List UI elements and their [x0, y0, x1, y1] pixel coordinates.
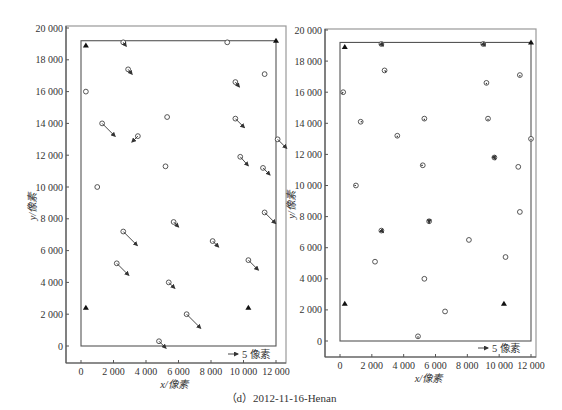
axes-frame: [66, 26, 286, 363]
x-tick-label: 6 000: [424, 360, 447, 371]
residual-arrow: [263, 168, 270, 175]
y-tick-label: 8 000: [41, 213, 64, 224]
image-boundary: [81, 41, 276, 346]
control-point-triangle: [342, 44, 348, 49]
check-point-circle: [83, 89, 88, 94]
check-point-circle: [503, 255, 508, 260]
control-point-triangle: [342, 301, 348, 306]
check-point-circle: [373, 259, 378, 264]
x-tick-label: 12 000: [262, 366, 290, 377]
y-tick-label: 18 000: [36, 54, 64, 65]
check-point-circle: [262, 72, 267, 77]
residual-arrow: [213, 241, 219, 247]
y-tick-label: 14 000: [295, 118, 323, 129]
y-tick-label: 2 000: [300, 304, 323, 315]
image-boundary: [340, 42, 531, 341]
residual-arrow: [159, 341, 166, 348]
y-tick-label: 6 000: [300, 242, 323, 253]
residual-arrow: [132, 136, 138, 142]
x-tick-label: 4 000: [392, 360, 415, 371]
y-tick-label: 0: [58, 341, 63, 352]
y-tick-label: 0: [317, 336, 322, 347]
check-point-circle: [467, 238, 472, 243]
y-tick-label: 14 000: [36, 118, 64, 129]
y-axis-label: y/像素: [27, 191, 38, 222]
check-point-circle: [516, 164, 521, 169]
check-point-circle: [163, 164, 168, 169]
legend-label: 5 像素: [242, 348, 270, 360]
check-point-circle: [517, 210, 522, 215]
residual-arrow: [169, 282, 175, 288]
residual-arrow: [240, 157, 248, 166]
y-tick-label: 16 000: [36, 86, 64, 97]
x-tick-label: 8 000: [456, 360, 479, 371]
check-point-circle: [225, 40, 230, 45]
x-tick-label: 8 000: [200, 366, 223, 377]
x-tick-label: 0: [338, 360, 343, 371]
y-tick-label: 18 000: [295, 56, 323, 67]
x-tick-label: 10 000: [230, 366, 258, 377]
y-tick-label: 6 000: [41, 245, 64, 256]
check-point-circle: [165, 115, 170, 120]
x-tick-label: 0: [79, 366, 84, 377]
residual-arrow: [265, 212, 276, 223]
y-tick-label: 8 000: [300, 211, 323, 222]
residual-arrow: [278, 139, 287, 148]
y-tick-label: 4 000: [41, 277, 64, 288]
residual-arrow: [235, 119, 244, 128]
figure-caption: （d）2012-11-16-Henan: [0, 389, 562, 405]
right-plot: 02 0004 0006 0008 00010 00012 00014 0001…: [286, 25, 545, 385]
y-tick-label: 10 000: [295, 180, 323, 191]
y-tick-label: 12 000: [295, 149, 323, 160]
control-point-triangle: [245, 305, 251, 310]
y-tick-label: 16 000: [295, 87, 323, 98]
x-tick-label: 12 000: [517, 360, 545, 371]
y-tick-label: 4 000: [300, 273, 323, 284]
y-axis-label: y/像素: [286, 189, 297, 220]
left-plot: 02 0004 0006 0008 00010 00012 00014 0001…: [27, 23, 290, 391]
control-point-triangle: [83, 42, 89, 47]
control-point-triangle: [83, 305, 89, 310]
y-tick-label: 20 000: [295, 25, 323, 36]
control-point-triangle: [501, 301, 507, 306]
residual-arrow: [117, 263, 129, 275]
check-point-circle: [95, 185, 100, 190]
residual-arrow: [123, 232, 137, 246]
x-tick-label: 10 000: [485, 360, 513, 371]
x-axis-label: x/像素: [414, 373, 445, 384]
y-tick-label: 2 000: [41, 309, 64, 320]
legend-label: 5 像素: [492, 342, 520, 354]
residual-arrow: [102, 123, 115, 136]
residual-arrow: [248, 260, 258, 270]
check-point-circle: [443, 309, 448, 314]
y-tick-label: 20 000: [36, 23, 64, 34]
chart-panel-left: 02 0004 0006 0008 00010 00012 00014 0001…: [0, 0, 562, 410]
x-tick-label: 6 000: [167, 366, 190, 377]
residual-arrow: [187, 314, 201, 328]
x-tick-label: 4 000: [135, 366, 158, 377]
x-tick-label: 2 000: [102, 366, 125, 377]
axes-frame: [325, 29, 536, 357]
y-tick-label: 12 000: [36, 150, 64, 161]
x-tick-label: 2 000: [361, 360, 384, 371]
y-tick-label: 10 000: [36, 182, 64, 193]
check-point-circle: [422, 276, 427, 281]
